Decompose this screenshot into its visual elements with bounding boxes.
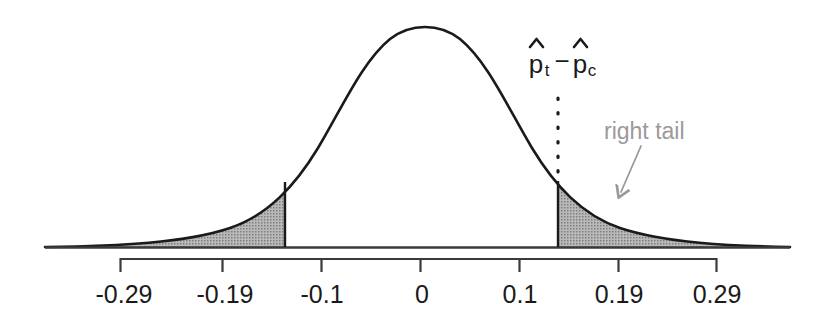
x-tick-label: 0 [415, 280, 429, 308]
callout-arrow-icon [621, 146, 641, 192]
x-tick-label: -0.19 [197, 280, 254, 308]
hat-accent-icon [574, 39, 587, 47]
x-tick-label: 0.1 [503, 280, 538, 308]
right-tail-callout: right tail [604, 118, 685, 192]
right-tail-label: right tail [604, 118, 685, 144]
observed-difference-label: p t − p c [529, 39, 597, 80]
estimate-minus-sign: − [554, 46, 569, 76]
x-tick-label: -0.1 [300, 280, 343, 308]
x-tick-label: 0.19 [595, 280, 644, 308]
left-tail-region [30, 20, 285, 250]
x-tick-label: -0.29 [96, 280, 153, 308]
shaded-tail-regions [30, 20, 808, 250]
hat-accent-icon [530, 39, 543, 47]
x-axis: -0.29 -0.19 -0.1 0 0.1 0.19 0.29 [96, 258, 742, 308]
estimate-subscript-c: c [588, 61, 597, 80]
distribution-chart: -0.29 -0.19 -0.1 0 0.1 0.19 0.29 p t − p… [0, 0, 833, 320]
estimate-p-treatment: p [529, 49, 543, 79]
estimate-subscript-t: t [545, 61, 550, 80]
estimate-p-control: p [573, 49, 587, 79]
x-tick-label: 0.29 [693, 280, 742, 308]
